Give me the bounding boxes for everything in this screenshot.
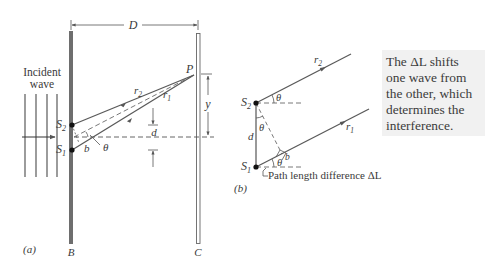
d-label: d xyxy=(151,126,157,138)
distance-label: D xyxy=(128,18,138,32)
panel-a: D Incident wave S2 S1 xyxy=(22,18,214,258)
b-label-b: b xyxy=(285,152,290,162)
callout-line-2: one wave from xyxy=(386,70,485,86)
ray-r1 xyxy=(72,75,194,150)
panel-b-label: (b) xyxy=(234,182,247,195)
y-label: y xyxy=(204,97,211,111)
theta-label-bottom: θ xyxy=(277,157,282,168)
r2-label: r2 xyxy=(134,84,142,99)
incident-label-line2: wave xyxy=(30,78,54,90)
callout-line-5: interference. xyxy=(386,118,485,134)
ray-r2 xyxy=(256,54,351,103)
callout-line-3: the other, which xyxy=(386,86,485,102)
r1-label-b: r1 xyxy=(346,120,354,135)
s1-label: S1 xyxy=(56,142,66,158)
theta-label-top: θ xyxy=(276,92,281,103)
d-dimension: d xyxy=(148,108,158,167)
barrier-label: B xyxy=(68,246,75,258)
source-s1 xyxy=(253,164,258,169)
source-s1 xyxy=(69,147,74,152)
b-perpendicular xyxy=(72,125,79,143)
barrier xyxy=(69,31,73,244)
theta-label: θ xyxy=(103,141,109,153)
y-dimension: y xyxy=(201,74,212,135)
incident-label-line1: Incident xyxy=(23,66,61,78)
ray-r1 xyxy=(256,109,369,167)
point-p-label: P xyxy=(185,62,194,76)
callout-line-4: determines the xyxy=(386,102,485,118)
double-slit-figure: D Incident wave S2 S1 xyxy=(0,0,499,261)
screen-label: C xyxy=(194,246,202,258)
source-s2 xyxy=(253,100,258,105)
callout-box: The ΔL shifts one wave from the other, w… xyxy=(382,50,485,136)
source-s2 xyxy=(69,122,74,127)
incident-wavefronts xyxy=(22,94,57,177)
ray-r2 xyxy=(72,75,194,125)
d-label-b: d xyxy=(248,130,254,142)
s2-label: S2 xyxy=(56,117,66,133)
b-label: b xyxy=(84,142,90,154)
path-difference-label: Path length difference ΔL xyxy=(268,169,382,181)
callout-line-1: The ΔL shifts xyxy=(386,54,485,70)
theta-label-mid: θ xyxy=(259,122,264,133)
panel-b: S2 S1 d θ θ θ b r2 r1 Path length differ… xyxy=(234,53,382,195)
s1-label-b: S1 xyxy=(241,159,251,175)
r2-label-b: r2 xyxy=(314,53,322,68)
panel-a-label: (a) xyxy=(23,243,36,256)
viewing-screen xyxy=(197,34,201,244)
distance-dimension: D xyxy=(71,18,198,32)
s2-label-b: S2 xyxy=(241,95,251,111)
